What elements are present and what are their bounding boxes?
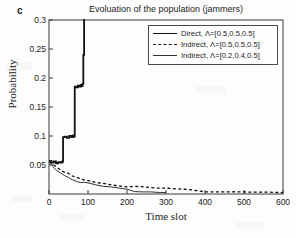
series-line [49,20,85,163]
legend[interactable]: Direct, Λ=[0.5,0.5,0.5] Indirect, Λ=[0.5… [148,25,278,65]
legend-label-direct: Direct, Λ=[0.5,0.5,0.5] [178,29,255,38]
legend-item-direct[interactable]: Direct, Λ=[0.5,0.5,0.5] [152,28,274,39]
legend-item-indirect-b[interactable]: Indirect, Λ=[0.2,0.4,0.5] [152,50,274,61]
legend-label-indirect-b: Indirect, Λ=[0.2,0.4,0.5] [178,51,260,60]
figure-panel: c Evoluation of the population (jammers)… [0,0,296,238]
legend-label-indirect-a: Indirect, Λ=[0.5,0.5,0.5] [178,40,260,49]
legend-line-solid-thin-icon [152,50,178,61]
legend-item-indirect-a[interactable]: Indirect, Λ=[0.5,0.5,0.5] [152,39,274,50]
legend-line-solid-thick-icon [152,28,178,39]
legend-line-dashed-icon [152,39,178,50]
series-line [49,162,283,193]
